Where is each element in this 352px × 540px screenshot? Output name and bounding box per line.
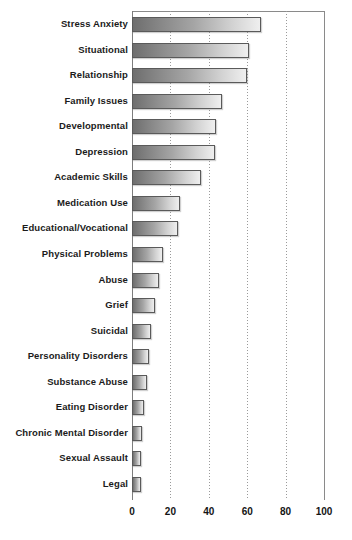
bar-developmental [132,119,216,134]
x-tick-label-80: 80 [280,506,291,517]
bar-situational [132,43,249,58]
value-axis-labels: 020406080100 [132,506,332,526]
category-label-relationship: Relationship [0,69,128,80]
category-label-stress-anxiety: Stress Anxiety [0,18,128,29]
plot-area [132,11,324,500]
bar-eating-disorder [132,400,144,415]
bar-substance-abuse [132,375,147,390]
bar-personality-disorders [132,349,149,364]
bar-legal [132,477,141,492]
x-tick-label-100: 100 [316,506,333,517]
x-tick-label-20: 20 [165,506,176,517]
category-label-personality-disorders: Personality Disorders [0,350,128,361]
bar-abuse [132,273,159,288]
category-label-chronic-mental-disorder: Chronic Mental Disorder [0,427,128,438]
x-tick-label-60: 60 [242,506,253,517]
bars-series [132,11,324,500]
bar-stress-anxiety [132,17,261,32]
category-label-physical-problems: Physical Problems [0,248,128,259]
category-label-legal: Legal [0,478,128,489]
category-label-eating-disorder: Eating Disorder [0,401,128,412]
bar-depression [132,145,215,160]
category-label-academic-skills: Academic Skills [0,171,128,182]
bar-academic-skills [132,170,201,185]
category-label-situational: Situational [0,44,128,55]
category-label-developmental: Developmental [0,120,128,131]
category-label-suicidal: Suicidal [0,325,128,336]
bar-physical-problems [132,247,163,262]
category-label-substance-abuse: Substance Abuse [0,376,128,387]
bar-medication-use [132,196,180,211]
x-tick-label-0: 0 [129,506,135,517]
x-tick-label-40: 40 [203,506,214,517]
category-label-medication-use: Medication Use [0,197,128,208]
category-label-sexual-assault: Sexual Assault [0,452,128,463]
category-label-abuse: Abuse [0,274,128,285]
bar-grief [132,298,155,313]
category-label-depression: Depression [0,146,128,157]
bar-family-issues [132,94,222,109]
category-label-grief: Grief [0,299,128,310]
category-axis-labels: Stress AnxietySituationalRelationshipFam… [0,11,128,500]
bar-educational-vocational [132,221,178,236]
bar-chronic-mental-disorder [132,426,142,441]
category-label-educational-vocational: Educational/Vocational [0,222,128,233]
gridline-100 [324,11,325,500]
bar-suicidal [132,324,151,339]
bar-sexual-assault [132,451,141,466]
category-label-family-issues: Family Issues [0,95,128,106]
bar-chart: Stress AnxietySituationalRelationshipFam… [0,0,352,540]
bar-relationship [132,68,247,83]
